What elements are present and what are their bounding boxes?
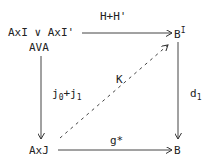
label-left-plus-j: +j — [63, 87, 76, 100]
label-right-sub: 1 — [197, 93, 202, 102]
label-top-arrow: H+H' — [100, 11, 127, 22]
label-bottom-arrow: g* — [110, 135, 123, 146]
label-left-sub1: 1 — [77, 93, 82, 102]
arrows-layer — [0, 0, 217, 164]
label-diagonal-arrow: K — [116, 74, 123, 85]
node-top-left-line1: AxI ∨ AxI' — [8, 27, 74, 38]
label-right-d: d — [190, 87, 197, 100]
label-left-j: j — [52, 87, 59, 100]
node-top-right-base: B — [174, 28, 181, 41]
label-right-arrow: d1 — [190, 88, 201, 102]
node-top-right: BI — [174, 27, 185, 40]
node-top-right-sup: I — [181, 26, 186, 35]
node-bottom-left: AxJ — [29, 145, 49, 156]
commutative-diagram: AxI ∨ AxI' AVA BI AxJ B H+H' j0+j1 d1 g*… — [0, 0, 217, 164]
node-top-left-line2: AVA — [29, 42, 49, 53]
label-left-arrow: j0+j1 — [52, 88, 82, 102]
node-bottom-right: B — [174, 145, 181, 156]
